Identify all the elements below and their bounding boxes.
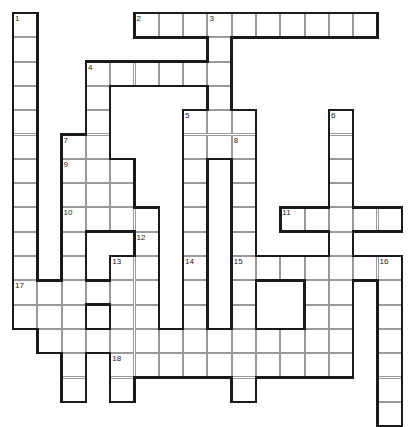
crossword-cell[interactable]	[13, 62, 37, 86]
crossword-cell[interactable]	[280, 353, 304, 377]
crossword-cell[interactable]	[86, 86, 110, 110]
crossword-cell[interactable]	[13, 135, 37, 159]
crossword-cell[interactable]	[183, 256, 207, 280]
crossword-cell[interactable]	[37, 329, 61, 353]
crossword-cell[interactable]	[159, 329, 183, 353]
crossword-cell[interactable]	[329, 183, 353, 207]
crossword-cell[interactable]	[37, 280, 61, 304]
crossword-cell[interactable]	[183, 110, 207, 134]
crossword-cell[interactable]	[256, 329, 280, 353]
crossword-cell[interactable]	[305, 280, 329, 304]
crossword-cell[interactable]	[110, 183, 134, 207]
crossword-cell[interactable]	[62, 159, 86, 183]
crossword-cell[interactable]	[280, 13, 304, 37]
crossword-cell[interactable]	[232, 280, 256, 304]
crossword-cell[interactable]	[305, 353, 329, 377]
crossword-cell[interactable]	[232, 378, 256, 402]
crossword-cell[interactable]	[135, 207, 159, 231]
crossword-cell[interactable]	[13, 280, 37, 304]
crossword-cell[interactable]	[378, 256, 402, 280]
crossword-cell[interactable]	[378, 353, 402, 377]
crossword-cell[interactable]	[110, 207, 134, 231]
crossword-cell[interactable]	[159, 13, 183, 37]
crossword-cell[interactable]	[329, 135, 353, 159]
crossword-cell[interactable]	[232, 135, 256, 159]
crossword-cell[interactable]	[378, 402, 402, 426]
crossword-cell[interactable]	[13, 232, 37, 256]
crossword-cell[interactable]	[135, 305, 159, 329]
crossword-cell[interactable]	[232, 256, 256, 280]
crossword-cell[interactable]	[280, 207, 304, 231]
crossword-cell[interactable]	[13, 37, 37, 61]
crossword-cell[interactable]	[232, 159, 256, 183]
crossword-cell[interactable]	[86, 159, 110, 183]
crossword-cell[interactable]	[329, 207, 353, 231]
crossword-cell[interactable]	[183, 280, 207, 304]
crossword-cell[interactable]	[13, 159, 37, 183]
crossword-cell[interactable]	[110, 378, 134, 402]
crossword-cell[interactable]	[135, 280, 159, 304]
crossword-cell[interactable]	[13, 256, 37, 280]
crossword-cell[interactable]	[378, 378, 402, 402]
crossword-cell[interactable]	[256, 256, 280, 280]
crossword-cell[interactable]	[329, 329, 353, 353]
crossword-cell[interactable]	[62, 232, 86, 256]
crossword-cell[interactable]	[207, 110, 231, 134]
crossword-cell[interactable]	[378, 329, 402, 353]
crossword-cell[interactable]	[135, 13, 159, 37]
crossword-cell[interactable]	[86, 110, 110, 134]
crossword-cell[interactable]	[232, 13, 256, 37]
crossword-cell[interactable]	[280, 329, 304, 353]
crossword-cell[interactable]	[62, 329, 86, 353]
crossword-cell[interactable]	[159, 353, 183, 377]
crossword-cell[interactable]	[232, 305, 256, 329]
crossword-cell[interactable]	[110, 256, 134, 280]
crossword-cell[interactable]	[62, 183, 86, 207]
crossword-cell[interactable]	[353, 207, 377, 231]
crossword-cell[interactable]	[329, 159, 353, 183]
crossword-cell[interactable]	[232, 183, 256, 207]
crossword-cell[interactable]	[183, 135, 207, 159]
crossword-cell[interactable]	[256, 353, 280, 377]
crossword-cell[interactable]	[13, 183, 37, 207]
crossword-cell[interactable]	[110, 62, 134, 86]
crossword-cell[interactable]	[329, 13, 353, 37]
crossword-cell[interactable]	[62, 305, 86, 329]
crossword-cell[interactable]	[135, 256, 159, 280]
crossword-cell[interactable]	[378, 305, 402, 329]
crossword-cell[interactable]	[329, 110, 353, 134]
crossword-cell[interactable]	[183, 159, 207, 183]
crossword-cell[interactable]	[329, 232, 353, 256]
crossword-cell[interactable]	[135, 329, 159, 353]
crossword-cell[interactable]	[329, 256, 353, 280]
crossword-cell[interactable]	[183, 183, 207, 207]
crossword-cell[interactable]	[232, 353, 256, 377]
crossword-cell[interactable]	[86, 329, 110, 353]
crossword-cell[interactable]	[305, 207, 329, 231]
crossword-cell[interactable]	[183, 62, 207, 86]
crossword-cell[interactable]	[62, 280, 86, 304]
crossword-cell[interactable]	[183, 305, 207, 329]
crossword-cell[interactable]	[86, 62, 110, 86]
crossword-cell[interactable]	[110, 159, 134, 183]
crossword-cell[interactable]	[13, 207, 37, 231]
crossword-cell[interactable]	[183, 353, 207, 377]
crossword-cell[interactable]	[353, 13, 377, 37]
crossword-cell[interactable]	[110, 353, 134, 377]
crossword-cell[interactable]	[183, 13, 207, 37]
crossword-cell[interactable]	[86, 135, 110, 159]
crossword-cell[interactable]	[207, 62, 231, 86]
crossword-cell[interactable]	[305, 305, 329, 329]
crossword-cell[interactable]	[183, 207, 207, 231]
crossword-cell[interactable]	[86, 183, 110, 207]
crossword-cell[interactable]	[62, 378, 86, 402]
crossword-cell[interactable]	[62, 207, 86, 231]
crossword-cell[interactable]	[329, 353, 353, 377]
crossword-cell[interactable]	[329, 280, 353, 304]
crossword-cell[interactable]	[135, 353, 159, 377]
crossword-cell[interactable]	[86, 207, 110, 231]
crossword-cell[interactable]	[110, 305, 134, 329]
crossword-cell[interactable]	[353, 256, 377, 280]
crossword-cell[interactable]	[207, 13, 231, 37]
